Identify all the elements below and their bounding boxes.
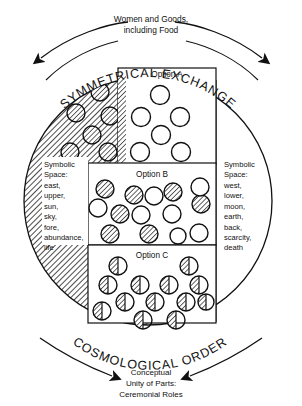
right-heading-2: Space: — [224, 170, 248, 179]
bottom-caption-line3: Ceremonial Roles — [119, 390, 183, 399]
right-term-1: lower, — [224, 191, 244, 200]
option-b-label: Option B — [136, 170, 168, 179]
right-term-6: death — [224, 243, 243, 252]
right-term-0: west, — [223, 181, 242, 190]
left-term-2: sun, — [44, 202, 58, 211]
left-term-0: east, — [44, 181, 60, 190]
right-term-4: back, — [224, 223, 242, 232]
right-term-3: earth, — [224, 212, 243, 221]
right-term-2: moon, — [224, 202, 245, 211]
option-c-group: Option C — [88, 245, 216, 329]
left-heading-1: Symbolic — [44, 160, 75, 169]
left-term-4: fore, — [44, 223, 59, 232]
left-moiety-text: Symbolic Space: east, upper, sun, sky, f… — [42, 157, 88, 252]
left-term-3: sky, — [44, 212, 57, 221]
left-term-5: abundance, — [44, 233, 84, 242]
right-heading-1: Symbolic — [224, 160, 255, 169]
left-heading-2: Space: — [44, 170, 68, 179]
option-b-group: Option B — [88, 163, 216, 245]
top-flow-label-line1: Women and Goods, — [114, 14, 188, 24]
bottom-caption-line1: Conceptual — [131, 368, 172, 377]
option-c-label: Option C — [136, 251, 168, 260]
option-a-group: Option A — [118, 68, 216, 164]
left-term-1: upper, — [44, 191, 65, 200]
top-flow-label-line2: including Food — [124, 25, 179, 35]
bottom-caption-line2: Unity of Parts: — [126, 379, 176, 388]
left-term-6: life — [44, 243, 54, 252]
right-term-5: scarcity, — [224, 233, 251, 242]
diagram-canvas: Option A Option B Option C — [0, 0, 302, 406]
